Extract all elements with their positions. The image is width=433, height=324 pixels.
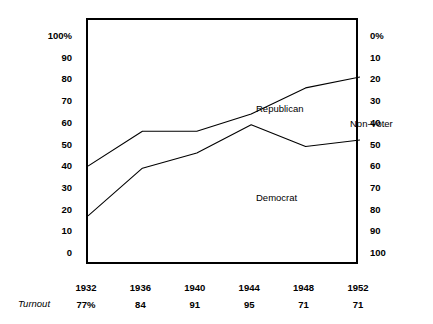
right-tick-80: 80 xyxy=(364,205,426,215)
year-label: 1940 xyxy=(167,281,223,294)
x-axis-column-1944: 194495 xyxy=(221,281,277,311)
right-tick-10: 10 xyxy=(364,53,426,63)
year-label: 1936 xyxy=(112,281,168,294)
left-tick-40: 40 xyxy=(16,161,78,171)
turnout-value: 95 xyxy=(221,298,277,311)
right-tick-30: 30 xyxy=(364,96,426,106)
turnout-value: 71 xyxy=(276,298,332,311)
left-tick-90: 90 xyxy=(16,53,78,63)
left-tick-100pct: 100% xyxy=(16,31,78,41)
turnout-value: 71 xyxy=(330,298,386,311)
right-tick-60: 60 xyxy=(364,161,426,171)
right-tick-20: 20 xyxy=(364,74,426,84)
left-tick-0: 0 xyxy=(16,248,78,258)
left-tick-30: 30 xyxy=(16,183,78,193)
line-republican-boundary xyxy=(88,77,360,166)
left-tick-20: 20 xyxy=(16,205,78,215)
turnout-value: 91 xyxy=(167,298,223,311)
right-tick-50: 50 xyxy=(364,140,426,150)
x-axis-column-1932: 193277% xyxy=(58,281,114,311)
right-tick-70: 70 xyxy=(364,183,426,193)
left-tick-80: 80 xyxy=(16,74,78,84)
year-label: 1944 xyxy=(221,281,277,294)
left-tick-60: 60 xyxy=(16,118,78,128)
x-axis-column-1940: 194091 xyxy=(167,281,223,311)
year-label: 1932 xyxy=(58,281,114,294)
year-label: 1948 xyxy=(276,281,332,294)
turnout-value: 84 xyxy=(112,298,168,311)
left-tick-10: 10 xyxy=(16,226,78,236)
x-axis-column-1936: 193684 xyxy=(112,281,168,311)
turnout-value: 77% xyxy=(58,298,114,311)
x-axis-column-1948: 194871 xyxy=(276,281,332,311)
plot-svg xyxy=(88,20,360,266)
series-annotation-republican: Republican xyxy=(256,103,304,114)
year-label: 1952 xyxy=(330,281,386,294)
left-tick-50: 50 xyxy=(16,140,78,150)
left-tick-70: 70 xyxy=(16,96,78,106)
right-tick-40: 40 xyxy=(364,118,426,128)
left-axis-ticks: 100%9080706050403020100 xyxy=(16,18,78,264)
line-democrat-boundary xyxy=(88,125,360,216)
x-axis-table: Turnout 193277%1936841940911944951948711… xyxy=(0,281,433,317)
x-axis-column-1952: 195271 xyxy=(330,281,386,311)
chart-figure: Republican Non-Voter Democrat 100%908070… xyxy=(0,0,433,324)
series-annotation-democrat: Democrat xyxy=(256,192,297,203)
plot-area: Republican Non-Voter Democrat xyxy=(86,18,358,264)
series-lines xyxy=(88,77,360,216)
right-tick-0pct: 0% xyxy=(364,31,426,41)
right-tick-90: 90 xyxy=(364,226,426,236)
right-axis-ticks: 0%102030405060708090100 xyxy=(364,18,426,264)
right-tick-100: 100 xyxy=(364,248,426,258)
